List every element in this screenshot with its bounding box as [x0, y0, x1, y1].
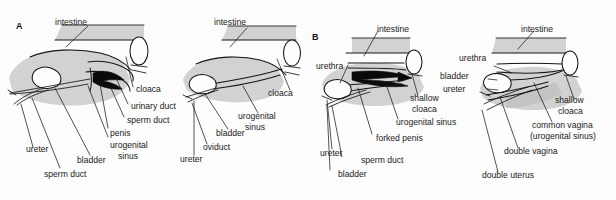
- figure-svg: A intestine cloaca urinary duct sperm du…: [0, 0, 616, 200]
- label-a-male-sperm-duct-upper: sperm duct: [127, 115, 170, 125]
- label-b-female-double-vagina: double vagina: [504, 146, 558, 156]
- label-b-female-shallow: shallow: [555, 95, 584, 105]
- diagram-b-female: intestine urethra bladder ureter shallow…: [440, 24, 596, 180]
- label-b-male-ureter: ureter: [320, 148, 343, 158]
- label-b-male-shallow: shallow: [410, 93, 439, 103]
- label-b-male-intestine: intestine: [377, 24, 409, 34]
- label-a-female-urogenital: urogenital: [238, 111, 276, 121]
- diagram-b-male: B intestine urethra shallow cloaca uroge…: [312, 24, 456, 179]
- a-male-intestine-shading: [55, 25, 144, 40]
- b-male-intestine-shading: [352, 38, 410, 53]
- b-male-cloaca-oval: [406, 50, 422, 74]
- label-b-female-common-vagina: common vagina: [532, 120, 593, 130]
- b-female-urethra-tube: [497, 63, 562, 64]
- label-b-female-bladder: bladder: [440, 71, 469, 81]
- b-female-intestine-shading: [492, 38, 566, 53]
- label-a-female-bladder: bladder: [216, 128, 245, 138]
- a-male-leader-sperm-duct-l: [32, 98, 60, 168]
- label-b-male-cloaca: cloaca: [412, 104, 437, 114]
- a-female-cloaca-oval: [284, 40, 301, 66]
- a-female-vent-line-2: [285, 72, 299, 75]
- label-a-male-penis: penis: [110, 128, 131, 138]
- label-a-male-sinus: sinus: [118, 151, 138, 161]
- diagram-a-male: A intestine cloaca urinary duct sperm du…: [8, 17, 177, 179]
- label-b-female-intestine: intestine: [521, 24, 553, 34]
- label-b-male-urogenital-sinus: urogenital sinus: [396, 117, 456, 127]
- label-b-female-ureter: ureter: [443, 84, 466, 94]
- a-female-intestine-shading: [222, 26, 296, 40]
- label-b-female-double-uterus: double uterus: [482, 170, 534, 180]
- label-b-female-cloaca: cloaca: [558, 106, 583, 116]
- label-a-male-urogenital: urogenital: [110, 140, 148, 150]
- label-a-male-sperm-duct-lower: sperm duct: [44, 169, 87, 179]
- label-a-male-cloaca: cloaca: [136, 84, 161, 94]
- a-male-leader-ureter: [21, 104, 33, 147]
- label-a-female-intestine: intestine: [214, 17, 246, 27]
- label-a-male-bladder: bladder: [77, 155, 106, 165]
- label-a-male-urinary-duct: urinary duct: [131, 101, 177, 111]
- a-male-vent-line-2: [132, 70, 146, 73]
- label-a-female-ureter: ureter: [180, 154, 203, 164]
- a-female-bladder: [189, 74, 216, 93]
- label-a-male-ureter: ureter: [26, 144, 49, 154]
- label-b-male-urethra: urethra: [316, 61, 343, 71]
- label-b-male-sperm-duct: sperm duct: [361, 155, 404, 165]
- label-b-male-forked-penis: forked penis: [376, 133, 423, 143]
- label-a-female-sinus: sinus: [245, 122, 265, 132]
- b-female-cloaca-oval: [562, 51, 578, 75]
- label-b-female-urethra: urethra: [459, 53, 486, 63]
- label-b-female-urogenital-sinus-paren: (urogenital sinus): [530, 131, 596, 141]
- label-a-female-cloaca: cloaca: [268, 88, 293, 98]
- anatomical-figure: A intestine cloaca urinary duct sperm du…: [0, 0, 616, 200]
- panel-b-letter: B: [312, 32, 319, 42]
- diagram-a-female: intestine cloaca urogenital sinus bladde…: [180, 17, 301, 164]
- a-male-cloaca-oval: [130, 37, 148, 65]
- panel-a-letter: A: [16, 21, 23, 31]
- label-a-male-intestine: intestine: [55, 17, 87, 27]
- label-b-male-bladder: bladder: [338, 169, 367, 179]
- b-female-leader-double-uterus: [482, 110, 498, 172]
- label-a-female-oviduct: oviduct: [203, 142, 231, 152]
